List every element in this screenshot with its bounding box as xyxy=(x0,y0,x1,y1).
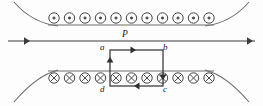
physics-diagram: P a b c d xyxy=(0,0,263,106)
field-dot-center xyxy=(177,17,179,19)
field-dot-center xyxy=(130,17,132,19)
field-dot-center xyxy=(84,17,86,19)
label-P: P xyxy=(122,30,128,40)
field-dot-center xyxy=(208,17,210,19)
loop-current-arrowhead xyxy=(107,57,114,63)
field-dot-center xyxy=(68,17,70,19)
vertex-label-c: c xyxy=(163,85,167,94)
vertex-label-d: d xyxy=(100,85,105,94)
diagram-canvas xyxy=(0,0,263,106)
loop-current-arrowhead xyxy=(160,75,167,81)
field-dot-center xyxy=(192,17,194,19)
vertex-label-a: a xyxy=(100,43,105,52)
conductor-arrowhead xyxy=(24,37,30,44)
straight-current-wire xyxy=(8,37,255,44)
loop-current-arrowhead xyxy=(131,47,137,54)
field-dot-center xyxy=(146,17,148,19)
field-symbols-out-of-page xyxy=(49,13,214,23)
field-dot-center xyxy=(115,17,117,19)
loop-current-arrowhead xyxy=(134,83,140,90)
vertex-label-b: b xyxy=(163,43,168,52)
field-dot-center xyxy=(99,17,101,19)
field-symbols-into-page xyxy=(49,73,214,83)
field-dot-center xyxy=(161,17,163,19)
field-dot-center xyxy=(53,17,55,19)
conductor-arrowhead xyxy=(247,37,253,44)
